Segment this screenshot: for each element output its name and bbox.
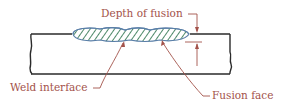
label-depth-of-fusion: Depth of fusion <box>101 7 183 19</box>
left-break-edge <box>30 34 32 74</box>
label-fusion-face: Fusion face <box>212 89 273 101</box>
weld-diagram: Depth of fusion Weld interface Fusion fa… <box>0 0 282 110</box>
label-weld-interface: Weld interface <box>10 81 87 93</box>
weld-interface-leader <box>93 41 125 88</box>
arrow-down-icon <box>195 27 199 33</box>
depth-of-fusion-dimension <box>185 14 202 66</box>
fusion-face-leader <box>161 40 210 96</box>
weld-bead <box>73 28 189 42</box>
fusion-zone-hatch <box>73 28 189 42</box>
right-break-edge <box>230 34 232 74</box>
arrow-icon <box>121 41 125 47</box>
